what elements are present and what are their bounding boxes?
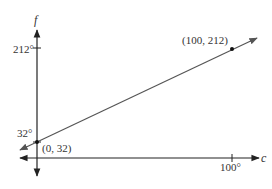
temperature-conversion-chart: f c 212° 32° 100° (0, 32) (100, 212) — [0, 0, 272, 189]
point-label-0-32: (0, 32) — [42, 142, 72, 155]
point-100-212 — [230, 47, 234, 51]
point-0-32 — [35, 140, 39, 144]
f-axis-label: f — [34, 13, 39, 27]
tick-label-100: 100° — [220, 161, 241, 173]
point-label-100-212: (100, 212) — [182, 34, 228, 47]
c-axis-label: c — [261, 151, 267, 165]
tick-label-212: 212° — [13, 43, 34, 55]
conversion-line — [20, 38, 257, 150]
tick-label-32: 32° — [17, 127, 32, 139]
